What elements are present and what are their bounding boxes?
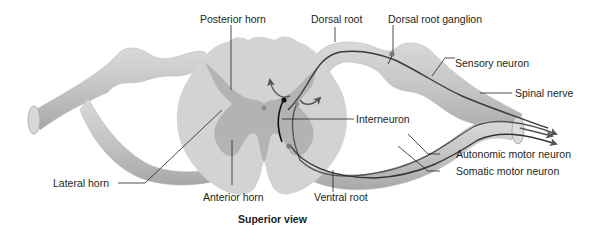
left-nerve-cut-end bbox=[28, 106, 40, 134]
spinal-cord-diagram bbox=[0, 0, 599, 225]
label-somatic-motor-neuron: Somatic motor neuron bbox=[456, 166, 559, 177]
label-autonomic-motor-neuron: Autonomic motor neuron bbox=[456, 149, 571, 160]
figure-caption: Superior view bbox=[238, 214, 307, 225]
label-ventral-root: Ventral root bbox=[314, 192, 368, 203]
label-interneuron: Interneuron bbox=[356, 114, 410, 125]
label-spinal-nerve: Spinal nerve bbox=[515, 88, 573, 99]
label-dorsal-root-ganglion: Dorsal root ganglion bbox=[388, 14, 482, 25]
spinal-cord bbox=[177, 36, 347, 194]
label-sensory-neuron: Sensory neuron bbox=[455, 58, 529, 69]
label-anterior-horn: Anterior horn bbox=[203, 192, 264, 203]
label-posterior-horn: Posterior horn bbox=[200, 14, 266, 25]
label-dorsal-root: Dorsal root bbox=[311, 14, 362, 25]
label-lateral-horn: Lateral horn bbox=[53, 178, 109, 189]
ganglion-cell-body bbox=[389, 51, 394, 56]
right-nerve-cut-end bbox=[512, 116, 524, 144]
central-canal bbox=[262, 106, 267, 111]
